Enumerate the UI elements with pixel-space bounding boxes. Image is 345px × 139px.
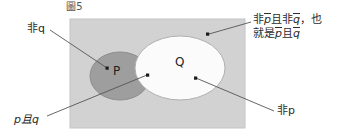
annotation-complement: 非p且非q，也 就是p且q: [253, 13, 322, 41]
annotation-not-p-text: 非p: [277, 104, 295, 117]
complement-l1-p: p: [264, 13, 271, 26]
complement-l2-p: p: [275, 27, 282, 40]
annotation-complement-line1: 非p且非q，也: [253, 13, 322, 27]
complement-l2-prefix: 就是: [253, 27, 275, 40]
annotation-not-p: 非p: [277, 104, 295, 118]
annotation-complement-line2: 就是p且q: [253, 27, 322, 41]
leader-dot-complement: [206, 33, 209, 36]
leader-dot-p-and-q: [146, 74, 149, 77]
annotation-not-q-text: 非q: [27, 22, 45, 35]
complement-l1-prefix: 非: [253, 13, 264, 26]
figure-caption: 圖5: [66, 1, 83, 14]
leader-dot-not-p: [194, 77, 197, 80]
complement-l1-q: q: [293, 13, 300, 26]
set-label-p: P: [113, 64, 120, 78]
set-label-q: Q: [175, 55, 184, 69]
complement-l2-mid: 且: [282, 27, 293, 40]
complement-l1-suffix: ，也: [300, 13, 322, 26]
annotation-p-and-q-text: p且q: [14, 113, 39, 126]
leader-dot-not-q: [106, 67, 109, 70]
complement-l2-q: q: [293, 27, 300, 40]
annotation-p-and-q: p且q: [14, 113, 39, 127]
annotation-not-q: 非q: [27, 22, 45, 36]
venn-diagram-figure: 圖5 P Q 非q p且q 非p 非p且非q，也 就是p且q: [0, 0, 345, 139]
complement-l1-mid: 且非: [271, 13, 293, 26]
